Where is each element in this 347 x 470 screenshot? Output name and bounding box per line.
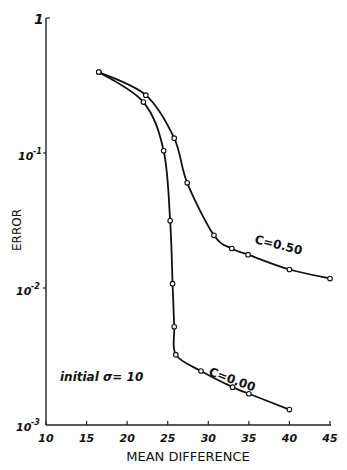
y-tick-label-10e-1: 10 -1 — [18, 147, 42, 163]
data-point-marker — [144, 93, 149, 98]
data-point-marker — [168, 219, 173, 224]
svg-text:-2: -2 — [31, 282, 40, 291]
data-point-marker — [246, 252, 251, 257]
data-point-marker — [287, 267, 292, 272]
data-point-marker — [185, 180, 190, 185]
data-point-marker — [161, 148, 166, 153]
svg-text:-3: -3 — [31, 418, 40, 427]
data-point-marker — [172, 324, 177, 329]
data-point-marker — [141, 100, 146, 105]
x-tick-label: 30 — [201, 432, 217, 445]
y-axis-title: ERROR — [10, 209, 24, 251]
data-point-marker — [174, 352, 179, 357]
data-point-marker — [230, 246, 235, 251]
y-tick-label-1: 1 — [34, 11, 44, 27]
x-tick-label: 40 — [281, 432, 298, 445]
y-axis — [43, 18, 50, 425]
y-tick-label-10e-2: 10 -2 — [16, 282, 40, 298]
x-tick-label: 15 — [79, 432, 95, 445]
svg-text:-1: -1 — [33, 147, 42, 156]
y-tick-label-10e-3: 10 -3 — [16, 418, 40, 434]
data-point-marker — [199, 369, 204, 374]
data-point-marker — [96, 70, 101, 75]
data-point-marker — [172, 136, 177, 141]
curve-label-c-0-50: C=0.50 — [253, 232, 303, 257]
x-tick-label: 35 — [241, 432, 257, 445]
x-axis: 1015202530354045 — [38, 421, 338, 445]
data-point-marker — [170, 281, 175, 286]
data-point-marker — [212, 233, 217, 238]
svg-text:10: 10 — [18, 150, 34, 163]
initial-sigma-label: initial σ= 10 — [60, 370, 143, 384]
data-point-markers — [96, 70, 332, 412]
data-point-marker — [328, 276, 333, 281]
x-tick-label: 10 — [38, 432, 54, 445]
x-axis-title: MEAN DIFFERENCE — [126, 449, 249, 464]
x-tick-label: 20 — [119, 432, 135, 445]
x-tick-label: 25 — [160, 432, 176, 445]
svg-text:10: 10 — [16, 421, 32, 434]
chart: 1015202530354045 1 10 -1 10 -2 10 -3 ERR… — [0, 0, 347, 470]
svg-text:10: 10 — [16, 285, 32, 298]
data-point-marker — [287, 407, 292, 412]
x-tick-label: 45 — [321, 432, 338, 445]
